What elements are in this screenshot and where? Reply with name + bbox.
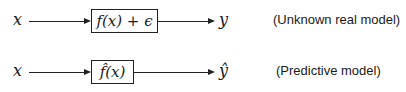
predictive-model-caption: (Predictive model)	[276, 63, 381, 78]
predictive-function-label: f̂(x)	[100, 63, 126, 81]
output-arrow-line	[158, 21, 208, 22]
output-y-label: y	[219, 12, 228, 28]
output-arrowhead-icon	[208, 18, 215, 24]
input-arrow-line	[29, 21, 84, 22]
output-yhat-label: ŷ	[219, 63, 228, 79]
real-function-label: f(x) + ϵ	[96, 12, 152, 30]
input-x-label: x	[13, 63, 22, 79]
input-arrow-line	[29, 72, 84, 73]
input-x-label: x	[13, 12, 22, 28]
input-arrowhead-icon	[84, 69, 91, 75]
input-arrowhead-icon	[84, 18, 91, 24]
real-model-caption: (Unknown real model)	[273, 12, 400, 27]
real-function-box: f(x) + ϵ	[91, 9, 158, 33]
predictive-function-box: f̂(x)	[91, 60, 134, 84]
output-arrowhead-icon	[208, 69, 215, 75]
output-arrow-line	[134, 72, 208, 73]
